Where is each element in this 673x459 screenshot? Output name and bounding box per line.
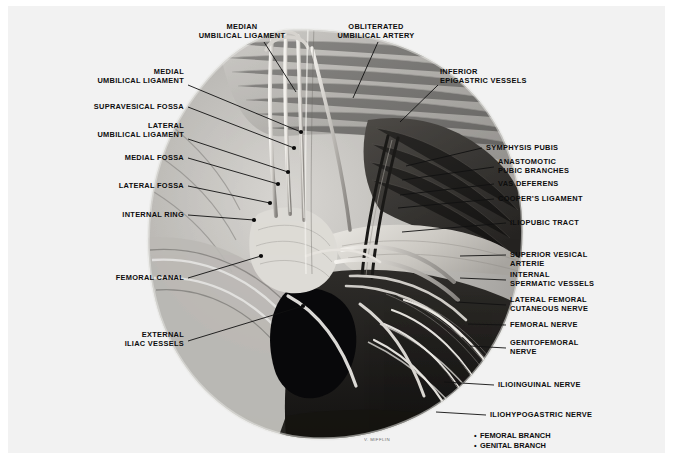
label-iliopubic-tract: ILIOPUBIC TRACT	[510, 219, 579, 228]
label-medial-fossa: MEDIAL FOSSA	[74, 154, 184, 163]
label-lateral-umbilical-ligament: LATERAL UMBILICAL LIGAMENT	[74, 122, 184, 139]
legend-item-femoral-branch: •FEMORAL BRANCH	[474, 431, 550, 441]
label-femoral-nerve: FEMORAL NERVE	[510, 321, 578, 330]
label-genitofemoral-nerve: GENITOFEMORAL NERVE	[510, 339, 579, 356]
label-symphysis-pubis: SYMPHYSIS PUBIS	[486, 144, 558, 153]
label-lateral-femoral-cutaneous-nerve: LATERAL FEMORAL CUTANEOUS NERVE	[510, 296, 588, 313]
legend-item-label: GENITAL BRANCH	[480, 441, 546, 450]
label-femoral-canal: FEMORAL CANAL	[74, 274, 184, 283]
label-inferior-epigastric-vessels: INFERIOR EPIGASTRIC VESSELS	[440, 68, 527, 85]
label-ilioinguinal-nerve: ILIOINGUINAL NERVE	[498, 381, 581, 390]
label-superior-vesical-artery: SUPERIOR VESICAL ARTERIE	[510, 251, 588, 268]
label-median-umbilical-ligament: MEDIAN UMBILICAL LIGAMENT	[194, 23, 290, 40]
label-vas-deferens: VAS DEFERENS	[498, 180, 559, 189]
label-medial-umbilical-ligament: MEDIAL UMBILICAL LIGAMENT	[74, 68, 184, 85]
illustration-plate: MEDIAN UMBILICAL LIGAMENTOBLITERATED UMB…	[8, 6, 665, 453]
label-iliohypogastric-nerve: ILIOHYPOGASTRIC NERVE	[490, 411, 592, 420]
artist-signature: V. MIFFLIN	[364, 437, 390, 442]
legend-item-genital-branch: •GENITAL BRANCH	[474, 441, 550, 451]
label-internal-ring: INTERNAL RING	[74, 211, 184, 220]
legend-item-label: FEMORAL BRANCH	[480, 431, 550, 440]
branch-legend: •FEMORAL BRANCH•GENITAL BRANCH	[474, 431, 550, 451]
label-supravesical-fossa: SUPRAVESICAL FOSSA	[74, 103, 184, 112]
label-external-iliac-vessels: EXTERNAL ILIAC VESSELS	[74, 331, 184, 348]
label-coopers-ligament: COOPER’S LIGAMENT	[498, 195, 583, 204]
label-lateral-fossa: LATERAL FOSSA	[74, 182, 184, 191]
label-anastomotic-pubic-branches: ANASTOMOTIC PUBIC BRANCHES	[498, 158, 569, 175]
label-internal-spermatic-vessels: INTERNAL SPERMATIC VESSELS	[510, 271, 594, 288]
label-obliterated-umbilical-artery: OBLITERATED UMBILICAL ARTERY	[326, 23, 426, 40]
